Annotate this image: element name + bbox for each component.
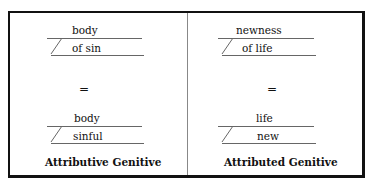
bottom-modifier-slant (221, 126, 241, 144)
top-modifier-line (222, 55, 316, 56)
top-modifier-word: of sin (72, 42, 101, 54)
top-head-word: newness (236, 24, 282, 36)
panel-attributive-genitive: body of sin = body sinful Attributive Ge… (10, 13, 188, 175)
bottom-modifier-word: sinful (73, 130, 103, 142)
bottom-modifier-line (51, 143, 144, 144)
top-modifier-slant (50, 38, 70, 56)
panel-attributed-genitive: newness of life = life new Attributed Ge… (188, 13, 366, 175)
panel-caption: Attributed Genitive (224, 156, 338, 168)
top-modifier-word: of life (242, 42, 272, 54)
top-head-word: body (72, 24, 98, 36)
bottom-head-word: body (74, 112, 100, 124)
bottom-modifier-word: new (257, 130, 279, 142)
bottom-head-word: life (256, 112, 273, 124)
bottom-modifier-slant (50, 126, 70, 144)
equals-sign: = (267, 82, 277, 96)
equals-sign: = (79, 82, 89, 96)
top-modifier-line (51, 55, 144, 56)
top-modifier-slant (221, 38, 241, 56)
bottom-modifier-line (222, 143, 316, 144)
panel-caption: Attributive Genitive (45, 156, 161, 168)
